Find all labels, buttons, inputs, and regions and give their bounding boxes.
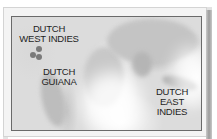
land-glow (82, 72, 142, 131)
label-dutch-guiana: DUTCH GUIANA (38, 67, 80, 87)
island-marker (36, 46, 42, 52)
frame-shadow-right (206, 10, 212, 139)
label-line: GUIANA (38, 77, 80, 87)
world-map: DUTCH WEST INDIES DUTCH GUIANA DUTCH EAS… (11, 16, 202, 131)
label-dutch-west-indies: DUTCH WEST INDIES (18, 24, 80, 44)
land-india (132, 52, 152, 77)
label-line: INDIES (152, 107, 192, 117)
label-dutch-east-indies: DUTCH EAST INDIES (152, 87, 192, 117)
island-marker (36, 54, 42, 60)
label-line: WEST INDIES (18, 34, 80, 44)
